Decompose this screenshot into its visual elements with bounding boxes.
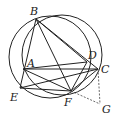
label-D: D [87, 49, 97, 62]
label-B: B [29, 5, 38, 18]
segment-BD [36, 19, 87, 62]
label-A: A [26, 57, 35, 70]
geometry-diagram: B A D C E F G [0, 0, 113, 118]
segment-FG [71, 91, 100, 104]
label-F: F [63, 96, 72, 109]
diagram-canvas: B A D C E F G [0, 0, 113, 118]
circle-1 [9, 16, 91, 98]
label-C: C [101, 63, 110, 76]
segment-EF [20, 88, 71, 91]
segment-CG [98, 69, 100, 104]
label-E: E [9, 91, 18, 104]
label-G: G [102, 103, 111, 116]
